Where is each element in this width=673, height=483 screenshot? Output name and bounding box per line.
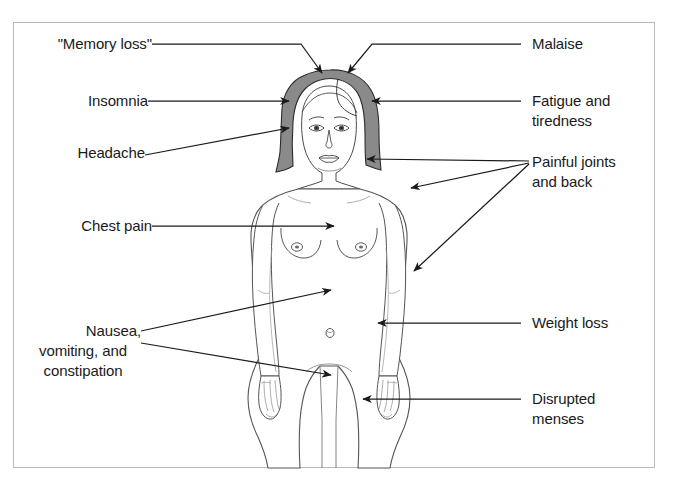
leader-headache: [145, 128, 289, 155]
label-nausea-line3: constipation: [20, 361, 146, 381]
navel: [326, 329, 334, 338]
label-insomnia: Insomnia: [0, 91, 148, 111]
label-fatigue-line2: tiredness: [532, 111, 662, 131]
label-menses-line1: Disrupted: [532, 389, 666, 409]
label-fatigue-line1: Fatigue and: [532, 91, 662, 111]
face-shape: [298, 86, 360, 189]
leader-memory-loss: [152, 44, 322, 73]
leader-joints-neck: [367, 159, 529, 161]
label-memory-loss: "Memory loss": [0, 34, 152, 54]
label-chest-pain: Chest pain: [0, 216, 152, 236]
label-joints-line1: Painful joints: [532, 152, 666, 172]
nipple-right: [356, 243, 367, 251]
eye-left: [309, 125, 324, 131]
label-headache: Headache: [0, 143, 145, 163]
label-menses-line2: menses: [532, 409, 666, 429]
leader-joints-shoulder: [411, 163, 529, 188]
body-figure: [248, 70, 410, 468]
leader-joints-arm: [414, 164, 529, 271]
symptom-diagram-figure: "Memory loss" Insomnia Headache Chest pa…: [0, 0, 673, 483]
nipple-left: [292, 243, 303, 251]
label-joints-line2: and back: [532, 172, 666, 192]
label-weight-loss: Weight loss: [532, 313, 666, 333]
leader-malaise: [348, 44, 521, 73]
label-malaise: Malaise: [532, 34, 662, 54]
label-nausea-line1: Nausea,: [0, 321, 141, 341]
label-nausea-line2: vomiting, and: [20, 341, 146, 361]
inner-thigh-gap: [320, 366, 338, 468]
eye-right: [334, 125, 349, 131]
